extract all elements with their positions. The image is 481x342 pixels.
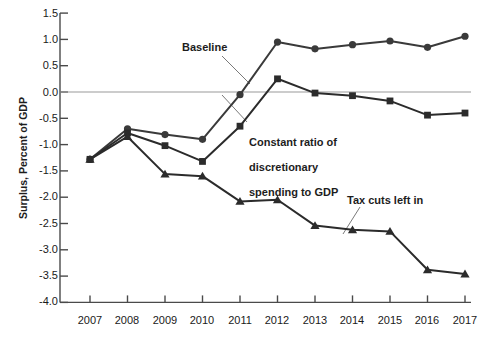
series-square <box>87 75 469 164</box>
series-triangle <box>85 132 469 277</box>
leader-line-constant-ratio <box>222 95 247 122</box>
data-point-marker <box>462 110 469 117</box>
plot-area <box>0 0 481 342</box>
data-point-marker <box>349 41 356 48</box>
data-point-marker <box>424 112 431 119</box>
surplus-percent-of-gdp-chart: Surplus, Percent of GDP 1.5 1.0 0.5 0.0 … <box>0 0 481 342</box>
axis-lines <box>60 13 471 302</box>
data-point-marker <box>199 158 206 165</box>
data-point-marker <box>387 98 394 105</box>
data-point-marker <box>386 37 393 44</box>
data-point-marker <box>349 92 356 99</box>
data-point-marker <box>199 136 206 143</box>
data-point-marker <box>274 75 281 82</box>
series-circle <box>86 33 468 163</box>
data-point-marker <box>461 33 468 40</box>
data-point-marker <box>161 131 168 138</box>
leader-line-baseline <box>222 56 250 84</box>
data-point-marker <box>312 90 319 97</box>
data-point-marker <box>237 123 244 130</box>
data-point-marker <box>311 45 318 52</box>
data-point-marker <box>236 91 243 98</box>
data-point-marker <box>424 44 431 51</box>
data-point-marker <box>162 142 169 149</box>
data-point-marker <box>274 38 281 45</box>
